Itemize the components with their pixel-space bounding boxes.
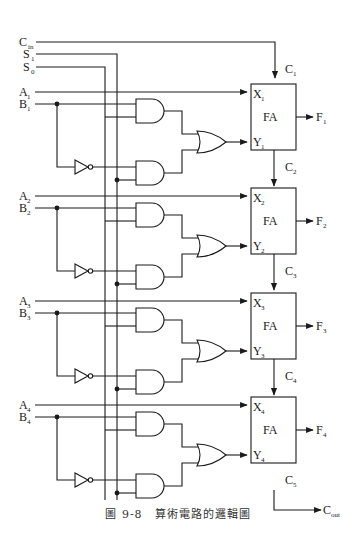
output-label-f: F 4	[316, 423, 327, 439]
svg-text:S: S	[23, 47, 30, 61]
svg-text:1: 1	[261, 143, 265, 151]
and-gate-icon	[136, 99, 164, 123]
carry-out-label: C 3	[285, 264, 297, 280]
svg-text:F: F	[316, 110, 323, 124]
svg-text:F: F	[316, 319, 323, 333]
svg-text:4: 4	[27, 418, 31, 426]
or-gate-icon	[197, 340, 226, 362]
and-to-or-wire	[164, 111, 199, 134]
junction-dot	[115, 178, 120, 183]
svg-text:4: 4	[261, 456, 265, 464]
svg-text:F: F	[316, 423, 323, 437]
svg-text:B: B	[19, 306, 27, 320]
svg-text:C: C	[285, 369, 293, 383]
and-gate-icon	[136, 370, 164, 394]
b-branch-wire	[57, 313, 75, 376]
svg-text:0: 0	[31, 68, 35, 76]
svg-text:3: 3	[27, 314, 31, 322]
and-to-or-wire	[164, 150, 199, 173]
svg-text:3: 3	[27, 302, 31, 310]
svg-text:5: 5	[293, 481, 297, 489]
and-to-or-wire	[164, 215, 199, 238]
svg-text:F: F	[316, 214, 323, 228]
svg-text:1: 1	[323, 118, 327, 126]
and-gate-icon	[136, 161, 164, 185]
and-to-or-wire	[164, 320, 199, 343]
svg-text:3: 3	[261, 304, 265, 312]
svg-text:2: 2	[27, 209, 31, 217]
carry-out-label: C 4	[285, 369, 297, 385]
junction-dot	[115, 491, 120, 496]
not-bubble	[88, 269, 92, 273]
stage-1: A 1 B 1	[19, 62, 327, 186]
and-gate-icon	[136, 265, 164, 289]
figure-caption: 圖 9-8 算術電路的邏輯圖	[0, 505, 356, 521]
not-gate-icon	[75, 160, 88, 174]
svg-text:3: 3	[261, 352, 265, 360]
svg-text:1: 1	[27, 105, 31, 113]
or-gate-icon	[197, 444, 226, 466]
output-label-f: F 2	[316, 214, 327, 230]
svg-text:B: B	[19, 201, 27, 215]
svg-text:4: 4	[261, 408, 265, 416]
fa-label: FA	[263, 423, 278, 437]
svg-text:1: 1	[31, 55, 35, 63]
svg-text:1: 1	[27, 93, 31, 101]
svg-text:C: C	[285, 473, 293, 487]
b-branch-wire	[57, 208, 75, 271]
svg-text:S: S	[23, 60, 30, 74]
svg-text:3: 3	[293, 272, 297, 280]
arithmetic-circuit-diagram: C in S 1 S 0 A 1 B 1	[0, 0, 356, 543]
junction-dot	[115, 387, 120, 392]
and-to-or-wire	[164, 463, 199, 486]
svg-text:4: 4	[27, 406, 31, 414]
fa-label: FA	[263, 110, 278, 124]
svg-text:2: 2	[27, 197, 31, 205]
svg-text:3: 3	[323, 327, 327, 335]
svg-text:B: B	[19, 97, 27, 111]
svg-text:2: 2	[261, 199, 265, 207]
junction-dot	[115, 282, 120, 287]
svg-text:2: 2	[293, 168, 297, 176]
fa-label: FA	[263, 214, 278, 228]
and-gate-icon	[136, 308, 164, 332]
svg-text:1: 1	[293, 70, 297, 78]
fa-label: FA	[263, 319, 278, 333]
svg-text:4: 4	[323, 431, 327, 439]
output-label-f: F 3	[316, 319, 327, 335]
not-bubble	[88, 165, 92, 169]
svg-text:B: B	[19, 410, 27, 424]
not-bubble	[88, 478, 92, 482]
svg-text:C: C	[285, 264, 293, 278]
cin-wire	[36, 42, 275, 78]
svg-text:4: 4	[293, 377, 297, 385]
and-to-or-wire	[164, 254, 199, 277]
carry-label: C 1	[285, 62, 297, 78]
and-gate-icon	[136, 412, 164, 436]
not-gate-icon	[75, 264, 88, 278]
output-label-f: F 1	[316, 110, 327, 126]
or-gate-icon	[197, 131, 226, 153]
carry-out-label: C 5	[285, 473, 297, 489]
carry-out-label: C 2	[285, 160, 297, 176]
and-to-or-wire	[164, 359, 199, 382]
svg-text:2: 2	[261, 247, 265, 255]
svg-text:2: 2	[323, 222, 327, 230]
b-branch-wire	[57, 104, 75, 167]
not-gate-icon	[75, 369, 88, 383]
svg-text:C: C	[285, 160, 293, 174]
svg-text:C: C	[285, 62, 293, 76]
svg-text:1: 1	[261, 95, 265, 103]
or-gate-icon	[197, 235, 226, 257]
s0-bus	[36, 67, 105, 500]
and-to-or-wire	[164, 424, 199, 447]
not-bubble	[88, 374, 92, 378]
and-gate-icon	[136, 474, 164, 498]
and-gate-icon	[136, 203, 164, 227]
not-gate-icon	[75, 473, 88, 487]
b-branch-wire	[57, 417, 75, 480]
